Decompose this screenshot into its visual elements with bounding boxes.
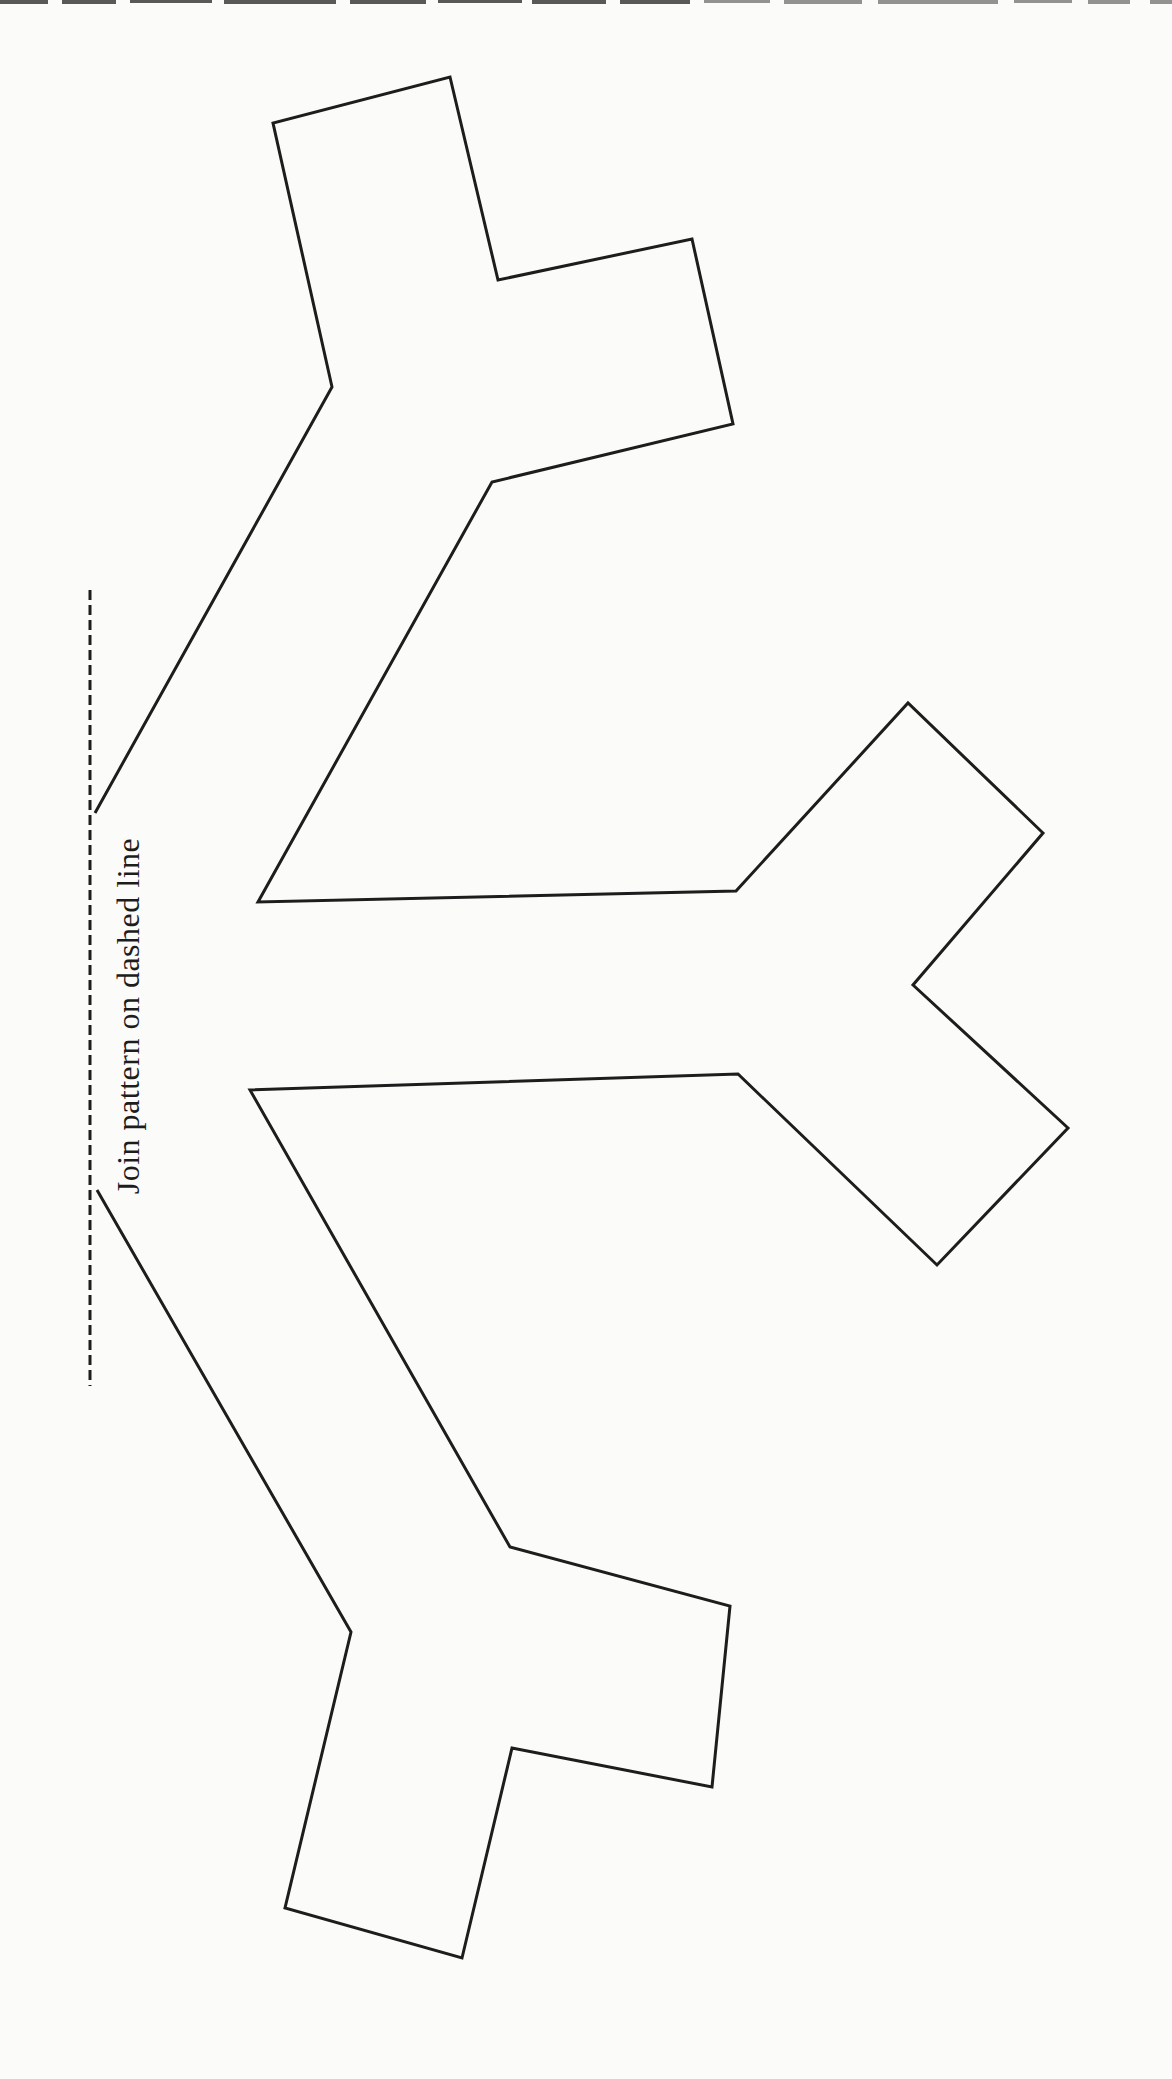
scan-edge-mark bbox=[438, 0, 522, 3]
join-instruction-label: Join pattern on dashed line bbox=[107, 766, 149, 1266]
scan-edge-mark bbox=[784, 0, 862, 4]
scan-edge-mark bbox=[350, 0, 426, 4]
scan-edge-mark bbox=[0, 0, 48, 4]
snowflake-outline bbox=[95, 77, 1068, 1958]
scan-edge-mark bbox=[1014, 0, 1072, 3]
scan-edge-mark bbox=[130, 0, 212, 3]
pattern-svg bbox=[0, 0, 1172, 2079]
scan-edge-mark bbox=[704, 0, 770, 3]
scan-edge-mark bbox=[1088, 0, 1130, 4]
scan-edge-mark bbox=[62, 0, 116, 4]
scan-edge-mark bbox=[224, 0, 336, 4]
scan-edge-mark bbox=[620, 0, 690, 4]
scan-edge-mark bbox=[878, 0, 998, 4]
scan-edge-mark bbox=[1150, 0, 1172, 4]
scanned-pattern-page: Join pattern on dashed line bbox=[0, 0, 1172, 2079]
scan-edge-mark bbox=[532, 0, 606, 4]
